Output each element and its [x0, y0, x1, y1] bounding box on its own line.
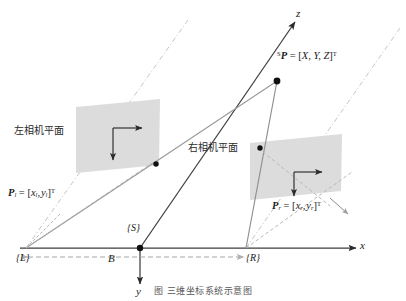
right-camera-frame-label: {R} [246, 253, 260, 263]
left-image-point-label: Pl = [xl, yl]T [8, 188, 55, 199]
world-point-components: X, Y, Z [302, 50, 330, 61]
left-image-plane-quad [76, 99, 160, 173]
right-image-plane-quad [250, 134, 342, 200]
right-point-subscript: r [278, 204, 281, 211]
left-ray-dashed-extension [26, 214, 60, 248]
world-point-label: SP = [X, Y, Z]T [277, 51, 337, 62]
world-point-symbol: P [281, 50, 287, 61]
world-frame-label: {S} [127, 223, 140, 233]
right-label-pointer-arrow [330, 198, 348, 214]
world-point-dot [274, 78, 281, 85]
right-image-plane-label: 右相机平面 [188, 143, 238, 153]
left-point-equals: = [ [19, 187, 31, 198]
figure-caption: 图 三维坐标系统示意图 [0, 284, 406, 297]
left-image-point-dot [153, 161, 158, 166]
x-axis-label: x [360, 240, 365, 251]
world-point-transpose: T [333, 50, 337, 57]
right-image-point-label: Pr = [xr, yr]T [272, 201, 321, 212]
left-point-subscript: l [14, 191, 16, 198]
z-axis-label: z [296, 8, 300, 19]
right-image-point-dot [257, 145, 262, 150]
right-point-transpose: T [317, 200, 321, 207]
baseline-label: B [108, 253, 115, 264]
left-image-plane-label: 左相机平面 [14, 126, 64, 136]
right-point-equals: = [ [284, 200, 296, 211]
world-point-equals: = [ [290, 50, 302, 61]
left-point-transpose: T [51, 187, 55, 194]
z-axis-line [140, 22, 295, 248]
world-origin-dot [137, 245, 143, 251]
left-camera-frame-label: {L} [16, 253, 30, 263]
